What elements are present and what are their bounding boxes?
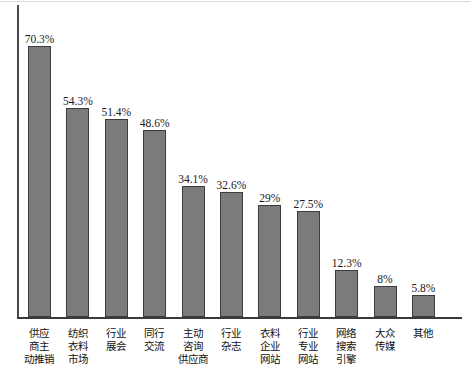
category-label-line: 市场 bbox=[58, 353, 96, 366]
bar-value-label: 8% bbox=[377, 273, 392, 285]
category-label-line: 传媒 bbox=[366, 340, 404, 353]
category-label: 网络搜索引擎 bbox=[327, 327, 365, 366]
bar-value-label: 29% bbox=[259, 192, 280, 204]
category-label: 其他 bbox=[404, 327, 442, 366]
category-label: 大众传媒 bbox=[366, 327, 404, 366]
category-label: 供应商主动推销 bbox=[20, 327, 58, 366]
bar: 27.5% bbox=[297, 211, 320, 317]
category-label: 衣料企业网站 bbox=[250, 327, 288, 366]
category-label-line: 网络 bbox=[327, 327, 365, 340]
category-label-line: 供应商 bbox=[174, 353, 212, 366]
category-label-line: 咨询 bbox=[174, 340, 212, 353]
top-border-line bbox=[0, 1, 470, 2]
bar-value-label: 12.3% bbox=[332, 257, 362, 269]
bar-value-label: 34.1% bbox=[178, 173, 208, 185]
bar-value-label: 5.8% bbox=[411, 282, 435, 294]
bar: 32.6% bbox=[220, 192, 243, 318]
bar: 12.3% bbox=[335, 270, 358, 317]
bar: 54.3% bbox=[66, 108, 89, 317]
category-label-line: 杂志 bbox=[212, 340, 250, 353]
category-label-line: 展会 bbox=[97, 340, 135, 353]
bar: 51.4% bbox=[105, 119, 128, 317]
category-label-line: 商主 bbox=[20, 340, 58, 353]
bar-chart: 70.3%54.3%51.4%48.6%34.1%32.6%29%27.5%12… bbox=[0, 0, 470, 379]
bar-value-label: 70.3% bbox=[25, 33, 55, 45]
category-label-line: 动推销 bbox=[20, 353, 58, 366]
y-axis-line bbox=[17, 5, 19, 318]
category-label: 纺织衣料市场 bbox=[58, 327, 96, 366]
x-axis-line bbox=[17, 317, 462, 319]
category-label-line: 主动 bbox=[174, 327, 212, 340]
category-label-line: 供应 bbox=[20, 327, 58, 340]
category-label-line: 网站 bbox=[250, 353, 288, 366]
category-label-line: 同行 bbox=[135, 327, 173, 340]
bar-value-label: 48.6% bbox=[140, 117, 170, 129]
category-label-line: 企业 bbox=[250, 340, 288, 353]
category-label-line: 网站 bbox=[289, 353, 327, 366]
category-label-line: 行业 bbox=[212, 327, 250, 340]
category-label-line: 纺织 bbox=[58, 327, 96, 340]
category-label-line: 其他 bbox=[404, 327, 442, 340]
category-label: 行业展会 bbox=[97, 327, 135, 366]
bar-value-label: 27.5% bbox=[293, 198, 323, 210]
category-label: 行业专业网站 bbox=[289, 327, 327, 366]
bar: 8% bbox=[374, 286, 397, 317]
category-label-line: 专业 bbox=[289, 340, 327, 353]
category-label-line: 行业 bbox=[97, 327, 135, 340]
bar: 48.6% bbox=[143, 130, 166, 317]
category-label: 行业杂志 bbox=[212, 327, 250, 366]
category-label-line: 行业 bbox=[289, 327, 327, 340]
bar: 29% bbox=[258, 205, 281, 317]
bar-value-label: 54.3% bbox=[63, 95, 93, 107]
category-label-line: 衣料 bbox=[58, 340, 96, 353]
bar: 5.8% bbox=[412, 295, 435, 317]
category-label: 同行交流 bbox=[135, 327, 173, 366]
category-label-line: 交流 bbox=[135, 340, 173, 353]
bar-value-label: 32.6% bbox=[217, 179, 247, 191]
bar: 34.1% bbox=[182, 186, 205, 317]
category-label-line: 搜索 bbox=[327, 340, 365, 353]
category-label-line: 衣料 bbox=[250, 327, 288, 340]
category-label: 主动咨询供应商 bbox=[174, 327, 212, 366]
x-axis-category-labels: 供应商主动推销纺织衣料市场行业展会同行交流主动咨询供应商行业杂志衣料企业网站行业… bbox=[20, 327, 442, 366]
bar-value-label: 51.4% bbox=[101, 106, 131, 118]
plot-area: 70.3%54.3%51.4%48.6%34.1%32.6%29%27.5%12… bbox=[28, 4, 435, 317]
bar: 70.3% bbox=[28, 46, 51, 317]
category-label-line: 引擎 bbox=[327, 353, 365, 366]
category-label-line: 大众 bbox=[366, 327, 404, 340]
